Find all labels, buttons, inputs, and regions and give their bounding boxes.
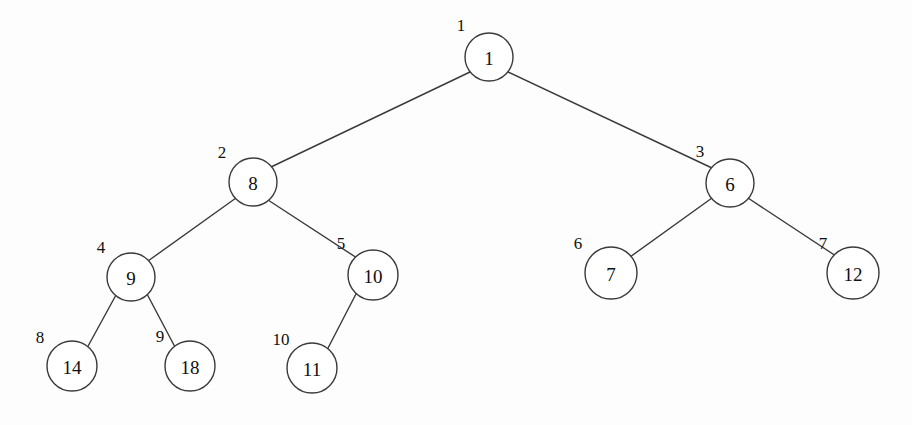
tree-edge — [271, 72, 470, 167]
node-value-label: 14 — [63, 357, 83, 378]
node-index-label: 8 — [36, 328, 45, 347]
node-index-label: 7 — [819, 234, 828, 253]
tree-node[interactable]: 189 — [156, 327, 215, 392]
node-value-label: 9 — [126, 268, 136, 289]
node-value-label: 12 — [844, 264, 863, 285]
tree-node[interactable]: 63 — [696, 142, 754, 208]
node-index-label: 2 — [218, 143, 227, 162]
node-value-label: 1 — [484, 48, 494, 69]
tree-edge — [87, 295, 116, 348]
tree-node[interactable]: 148 — [36, 328, 97, 392]
node-value-label: 10 — [364, 266, 383, 287]
node-layer: 11826394105761271481891110 — [36, 16, 879, 394]
node-index-label: 6 — [574, 234, 583, 253]
node-index-label: 10 — [273, 330, 290, 349]
node-index-label: 4 — [97, 238, 106, 257]
node-index-label: 9 — [156, 327, 165, 346]
binary-tree-figure: 11826394105761271481891110 — [0, 0, 912, 425]
node-index-label: 5 — [337, 234, 346, 253]
node-value-label: 6 — [725, 174, 735, 195]
tree-edge — [327, 292, 357, 350]
tree-node[interactable]: 76 — [574, 234, 637, 300]
tree-edge — [148, 198, 236, 261]
tree-node[interactable]: 1110 — [273, 330, 338, 394]
node-value-label: 11 — [303, 359, 321, 380]
tree-node[interactable]: 105 — [337, 234, 398, 301]
node-index-label: 3 — [696, 142, 705, 161]
tree-canvas: 11826394105761271481891110 — [0, 0, 912, 425]
tree-edge — [630, 198, 712, 257]
node-value-label: 7 — [606, 264, 616, 285]
tree-edge — [508, 72, 712, 168]
tree-node[interactable]: 94 — [97, 238, 155, 302]
node-value-label: 18 — [181, 357, 200, 378]
tree-node[interactable]: 82 — [218, 143, 277, 207]
edge-layer — [87, 72, 836, 350]
node-value-label: 8 — [248, 173, 258, 194]
tree-node[interactable]: 127 — [819, 234, 879, 300]
tree-node[interactable]: 11 — [457, 16, 513, 82]
node-index-label: 1 — [457, 16, 466, 35]
